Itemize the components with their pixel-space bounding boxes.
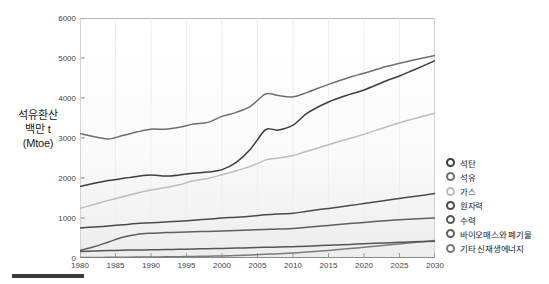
x-tick-label-2010: 2010 — [284, 261, 302, 270]
y-tick-label-3000: 3000 — [46, 134, 76, 143]
legend-item-4[interactable]: 원자력 — [446, 200, 549, 211]
legend-marker-oil-icon — [446, 172, 455, 181]
legend-marker-hydro-icon — [446, 215, 455, 224]
y-tick-label-1000: 1000 — [46, 214, 76, 223]
legend-item-2[interactable]: 석유 — [446, 171, 549, 182]
x-tick-label-2000: 2000 — [213, 261, 231, 270]
y-tick-label-4000: 4000 — [46, 94, 76, 103]
y-tick-label-2000: 2000 — [46, 174, 76, 183]
legend-label-2: 석유 — [460, 171, 475, 183]
x-tick-label-2015: 2015 — [320, 261, 338, 270]
legend-marker-coal-icon — [446, 158, 455, 167]
legend-label-6: 바이오매스와 폐기물 — [460, 228, 531, 240]
x-tick-label-2005: 2005 — [249, 261, 267, 270]
legend-item-1[interactable]: 석탄 — [446, 157, 549, 168]
x-tick-label-1995: 1995 — [178, 261, 196, 270]
legend-item-5[interactable]: 수력 — [446, 214, 549, 225]
x-tick-label-1990: 1990 — [142, 261, 160, 270]
x-tick-label-2020: 2020 — [355, 261, 373, 270]
plot-svg — [80, 18, 435, 258]
chart-legend: 석탄석유가스원자력수력바이오매스와 폐기물기타 신재생에너지 — [446, 157, 549, 257]
y-tick-label-5000: 5000 — [46, 54, 76, 63]
legend-label-3: 가스 — [460, 185, 475, 197]
legend-item-3[interactable]: 가스 — [446, 186, 549, 197]
legend-marker-nuclear-icon — [446, 201, 455, 210]
bottom-rule-mark — [12, 274, 84, 278]
legend-item-6[interactable]: 바이오매스와 폐기물 — [446, 228, 549, 239]
x-axis-tick-labels: 1980198519901995200020052010201520202025… — [80, 261, 435, 275]
legend-item-7[interactable]: 기타 신재생에너지 — [446, 243, 549, 254]
legend-label-5: 수력 — [460, 214, 475, 226]
y-tick-label-6000: 6000 — [46, 14, 76, 23]
y-axis-tick-labels: 0100020003000400050006000 — [44, 18, 76, 258]
legend-label-7: 기타 신재생에너지 — [460, 242, 524, 254]
x-tick-label-2030: 2030 — [426, 261, 444, 270]
legend-label-4: 원자력 — [460, 199, 483, 211]
legend-label-1: 석탄 — [460, 157, 475, 169]
chart-figure: 석유환산 백만 t (Mtoe) 01000200030004000500060… — [0, 0, 549, 284]
x-tick-label-1985: 1985 — [107, 261, 125, 270]
plot-area — [80, 18, 435, 258]
legend-marker-gas-icon — [446, 187, 455, 196]
x-tick-label-1980: 1980 — [71, 261, 89, 270]
x-tick-label-2025: 2025 — [391, 261, 409, 270]
legend-marker-biomass-icon — [446, 229, 455, 238]
legend-marker-other-renewables-icon — [446, 244, 455, 253]
